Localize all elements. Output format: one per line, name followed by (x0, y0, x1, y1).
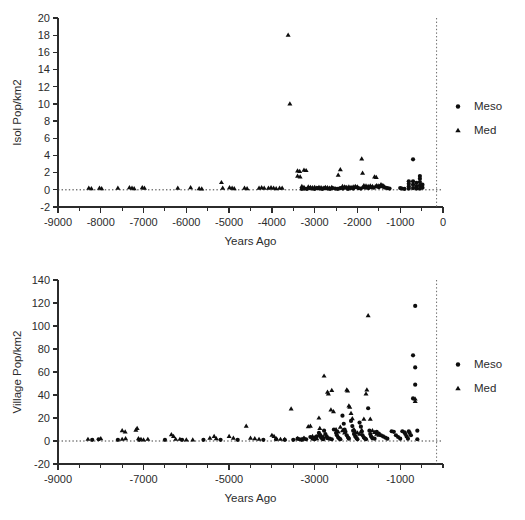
figure-container: -202468101214161820-9000-8000-7000-6000-… (0, 0, 525, 520)
data-point-med (368, 417, 373, 421)
data-point-med (338, 425, 343, 429)
series-med (85, 313, 417, 441)
data-point-med (244, 423, 249, 427)
x-tick-label: -6000 (172, 216, 200, 228)
data-point-med (364, 387, 369, 391)
data-point-meso (409, 433, 413, 437)
data-point-meso (420, 186, 424, 190)
data-point-med (257, 437, 262, 441)
data-point-meso (137, 438, 141, 442)
data-point-meso (330, 437, 334, 441)
y-tick-label: -2 (40, 201, 50, 213)
legend-marker-meso (456, 362, 460, 366)
legend-marker-meso (456, 104, 460, 108)
data-point-meso (387, 186, 391, 190)
data-point-med (316, 415, 321, 419)
data-point-meso (355, 437, 359, 441)
y-tick-label: 20 (38, 412, 50, 424)
data-point-med (207, 436, 212, 440)
data-point-med (248, 436, 253, 440)
y-axis-title: Village Pop/km2 (11, 331, 23, 414)
scatter-plot-isol: -202468101214161820-9000-8000-7000-6000-… (0, 0, 525, 262)
data-point-meso (413, 365, 417, 369)
data-point-meso (218, 438, 222, 442)
legend-label-meso: Meso (474, 358, 502, 370)
data-points-group (85, 304, 419, 442)
legend-marker-med (455, 386, 460, 390)
y-tick-label: 10 (38, 98, 50, 110)
y-tick-label: 60 (38, 366, 50, 378)
data-point-meso (116, 438, 120, 442)
y-tick-label: 12 (38, 81, 50, 93)
data-point-med (227, 434, 232, 438)
data-point-med (220, 185, 225, 189)
chart-panel-village: -20020406080100120140-9000-7000-5000-300… (0, 262, 525, 520)
data-point-med (278, 437, 283, 441)
x-tick-label: -5000 (215, 473, 243, 485)
series-meso (90, 304, 419, 442)
data-point-med (364, 391, 369, 395)
y-tick-label: 100 (32, 320, 50, 332)
data-point-meso (413, 304, 417, 308)
data-point-med (366, 313, 371, 317)
data-point-meso (342, 422, 346, 426)
data-point-meso (413, 383, 417, 387)
y-tick-label: 140 (32, 274, 50, 286)
data-point-med (188, 185, 193, 189)
data-point-meso (304, 437, 308, 441)
data-point-med (338, 167, 343, 171)
data-point-med (349, 411, 354, 415)
data-point-med (322, 373, 327, 377)
series-med (86, 33, 386, 191)
data-point-meso (201, 438, 205, 442)
x-tick-label: -2000 (343, 216, 371, 228)
data-point-med (287, 101, 292, 105)
data-point-meso (349, 419, 353, 423)
scatter-plot-village: -20020406080100120140-9000-7000-5000-300… (0, 262, 525, 520)
data-point-meso (398, 437, 402, 441)
x-tick-label: -3000 (301, 216, 329, 228)
data-point-meso (372, 437, 376, 441)
data-point-med (336, 173, 341, 177)
y-tick-label: -20 (34, 458, 50, 470)
x-tick-label: -7000 (129, 473, 157, 485)
data-point-meso (261, 438, 265, 442)
y-axis-title: Isol Pop/km2 (11, 79, 23, 145)
data-point-meso (366, 406, 370, 410)
data-points-group (86, 33, 424, 191)
y-tick-label: 20 (38, 12, 50, 24)
data-point-meso (180, 438, 184, 442)
data-point-med (190, 437, 195, 441)
data-point-meso (411, 157, 415, 161)
data-point-meso (411, 396, 415, 400)
data-point-meso (97, 437, 101, 441)
x-axis-title: Years Ago (224, 492, 276, 504)
legend-label-med: Med (474, 382, 496, 394)
y-tick-label: 80 (38, 343, 50, 355)
data-point-meso (406, 437, 410, 441)
data-point-med (123, 436, 128, 440)
data-point-med (219, 180, 224, 184)
data-point-meso (407, 186, 411, 190)
y-tick-label: 14 (38, 63, 50, 75)
y-tick-label: 18 (38, 29, 50, 41)
data-point-med (145, 437, 150, 441)
data-point-meso (338, 437, 342, 441)
y-tick-label: 8 (44, 115, 50, 127)
data-point-meso (274, 437, 278, 441)
data-point-meso (402, 187, 406, 191)
data-point-meso (415, 437, 419, 441)
data-point-meso (340, 414, 344, 418)
data-point-med (361, 417, 366, 421)
y-tick-label: 6 (44, 132, 50, 144)
chart-panel-isol: -202468101214161820-9000-8000-7000-6000-… (0, 0, 525, 262)
data-point-med (175, 185, 180, 189)
x-tick-label: -5000 (215, 216, 243, 228)
data-point-med (317, 426, 322, 430)
x-tick-label: -4000 (258, 216, 286, 228)
data-point-meso (385, 437, 389, 441)
data-point-med (360, 170, 365, 174)
x-tick-label: -1000 (386, 216, 414, 228)
x-axis-title: Years Ago (224, 235, 276, 247)
y-tick-label: 40 (38, 389, 50, 401)
